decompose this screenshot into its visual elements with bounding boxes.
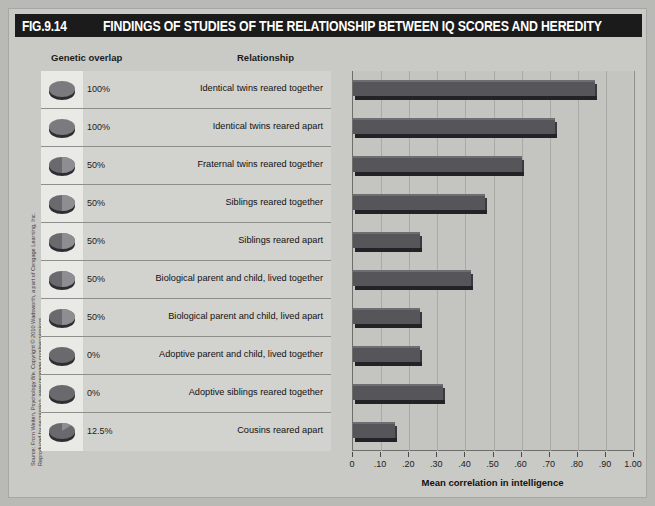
relationship-label: Adoptive parent and child, lived togethe…	[159, 349, 323, 359]
x-axis-tick	[605, 452, 606, 457]
genetic-overlap-disk-icon	[47, 78, 77, 102]
x-axis-tick	[464, 452, 465, 457]
genetic-overlap-disk-icon	[47, 306, 77, 330]
genetic-overlap-value: 50%	[87, 198, 105, 208]
relationship-label: Cousins reared apart	[237, 425, 323, 435]
genetic-overlap-disk-icon	[47, 230, 77, 254]
x-axis-title: Mean correlation in intelligence	[352, 477, 633, 488]
genetic-overlap-disk-icon	[47, 420, 77, 444]
table-row[interactable]: 50%Biological parent and child, lived to…	[41, 261, 331, 299]
genetic-overlap-value: 50%	[87, 274, 105, 284]
genetic-overlap-value: 50%	[87, 236, 105, 246]
chart-bar[interactable]	[353, 156, 522, 172]
x-axis-tick-label: .70	[534, 459, 564, 469]
chart-bar[interactable]	[353, 346, 420, 362]
relationship-label: Biological parent and child, lived toget…	[155, 273, 323, 283]
x-axis-tick-label: .50	[478, 459, 508, 469]
x-axis-tick	[380, 452, 381, 457]
chart-gridline	[578, 71, 579, 451]
x-axis-tick-label: .90	[590, 459, 620, 469]
table-row[interactable]: 50%Siblings reared apart	[41, 223, 331, 261]
genetic-overlap-disk-icon	[47, 268, 77, 292]
chart-plot-area	[352, 71, 633, 451]
chart-bar[interactable]	[353, 194, 485, 210]
genetic-overlap-value: 50%	[87, 160, 105, 170]
x-axis-tick	[493, 452, 494, 457]
x-axis-tick	[577, 452, 578, 457]
genetic-overlap-value: 100%	[87, 84, 110, 94]
relationship-label: Biological parent and child, lived apart	[168, 311, 323, 321]
chart-gridline	[606, 71, 607, 451]
x-axis-tick	[633, 452, 634, 457]
genetic-overlap-disk-icon	[47, 382, 77, 406]
genetic-overlap-value: 12.5%	[87, 426, 113, 436]
figure-panel: FIG.9.14 FINDINGS OF STUDIES OF THE RELA…	[8, 8, 647, 498]
chart-bar[interactable]	[353, 270, 471, 286]
genetic-overlap-disk-icon	[47, 154, 77, 178]
x-axis-tick	[352, 452, 353, 457]
table-row[interactable]: 0%Adoptive parent and child, lived toget…	[41, 337, 331, 375]
table-row[interactable]: 50%Biological parent and child, lived ap…	[41, 299, 331, 337]
table-row[interactable]: 100%Identical twins reared apart	[41, 109, 331, 147]
chart-bar[interactable]	[353, 308, 420, 324]
table-row[interactable]: 50%Fraternal twins reared together	[41, 147, 331, 185]
chart-bar[interactable]	[353, 422, 395, 438]
source-credit-line1: Source: From Weiten, Psychology 8/e. Cop…	[30, 166, 37, 466]
genetic-overlap-disk-icon	[47, 192, 77, 216]
figure-title-bar: FIG.9.14 FINDINGS OF STUDIES OF THE RELA…	[15, 14, 642, 37]
relationship-label: Siblings reared together	[225, 197, 323, 207]
genetic-overlap-value: 0%	[87, 388, 100, 398]
genetic-overlap-disk-icon	[47, 116, 77, 140]
figure-number: FIG.9.14	[15, 18, 67, 34]
x-axis-tick	[549, 452, 550, 457]
chart-bar[interactable]	[353, 118, 555, 134]
column-header-relationship: Relationship	[237, 52, 294, 68]
genetic-overlap-value: 0%	[87, 350, 100, 360]
relationship-label: Fraternal twins reared together	[197, 159, 323, 169]
table-row[interactable]: 0%Adoptive siblings reared together	[41, 375, 331, 413]
x-axis-tick-label: .60	[506, 459, 536, 469]
chart-bar[interactable]	[353, 80, 595, 96]
relationship-label: Identical twins reared apart	[213, 121, 323, 131]
x-axis-tick	[436, 452, 437, 457]
genetic-overlap-value: 50%	[87, 312, 105, 322]
relationship-label: Identical twins reared together	[200, 83, 323, 93]
page-title: FINDINGS OF STUDIES OF THE RELATIONSHIP …	[103, 18, 602, 34]
x-axis-tick-label: .80	[562, 459, 592, 469]
x-axis-tick-label: .10	[365, 459, 395, 469]
table-row[interactable]: 50%Siblings reared together	[41, 185, 331, 223]
relationship-table: 100%Identical twins reared together100%I…	[41, 71, 331, 451]
genetic-overlap-value: 100%	[87, 122, 110, 132]
column-header-genetic-overlap: Genetic overlap	[51, 52, 122, 68]
x-axis-tick-label: 0	[337, 459, 367, 469]
chart-bar[interactable]	[353, 384, 443, 400]
relationship-label: Adoptive siblings reared together	[189, 387, 323, 397]
chart-gridline	[634, 71, 635, 451]
x-axis-tick-label: .20	[393, 459, 423, 469]
x-axis-tick	[521, 452, 522, 457]
relationship-label: Siblings reared apart	[238, 235, 323, 245]
x-axis-tick-label: .40	[449, 459, 479, 469]
table-row[interactable]: 12.5%Cousins reared apart	[41, 413, 331, 451]
x-axis-tick-label: .30	[421, 459, 451, 469]
x-axis-tick-label: 1.00	[618, 459, 648, 469]
x-axis-tick	[408, 452, 409, 457]
genetic-overlap-disk-icon	[47, 344, 77, 368]
chart-bar[interactable]	[353, 232, 420, 248]
table-row[interactable]: 100%Identical twins reared together	[41, 71, 331, 109]
